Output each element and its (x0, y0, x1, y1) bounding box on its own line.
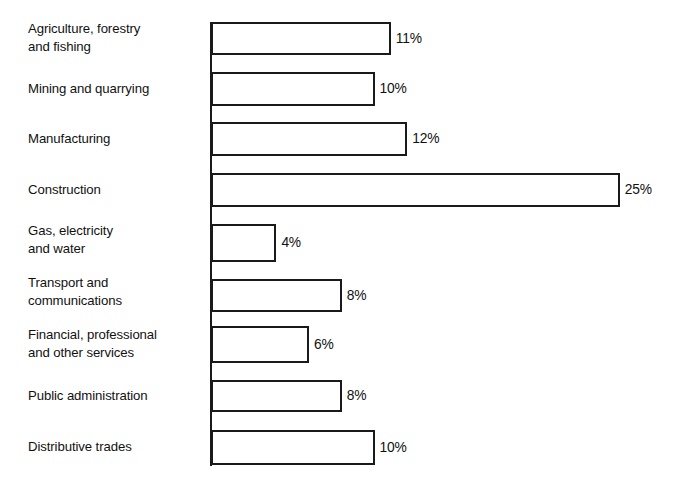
bar (211, 122, 407, 156)
bar (211, 72, 375, 106)
category-label: Manufacturing (28, 130, 208, 148)
bar-value-label: 25% (625, 183, 652, 197)
bar-value-label: 6% (314, 338, 334, 352)
bar (211, 380, 342, 412)
category-label: Gas, electricity and water (28, 222, 208, 257)
category-label: Mining and quarrying (28, 80, 208, 98)
category-label: Agriculture, forestry and fishing (28, 20, 208, 55)
bar (211, 326, 309, 363)
bar (211, 279, 342, 312)
bar-value-label: 8% (347, 289, 367, 303)
category-label: Public administration (28, 387, 208, 405)
category-label: Construction (28, 181, 208, 199)
bar-value-label: 10% (380, 441, 407, 455)
bar-value-label: 12% (412, 132, 439, 146)
bar-value-label: 11% (396, 32, 422, 46)
bar-chart: Agriculture, forestry and fishing11%Mini… (0, 0, 689, 495)
category-label: Transport and communications (28, 274, 208, 309)
bar (211, 224, 276, 262)
category-label: Distributive trades (28, 438, 208, 456)
bar-value-label: 8% (347, 389, 367, 403)
bar (211, 22, 391, 55)
bar (211, 173, 620, 207)
bar-value-label: 4% (281, 236, 301, 250)
bar (211, 430, 375, 465)
bar-value-label: 10% (380, 82, 407, 96)
category-label: Financial, professional and other servic… (28, 326, 208, 361)
